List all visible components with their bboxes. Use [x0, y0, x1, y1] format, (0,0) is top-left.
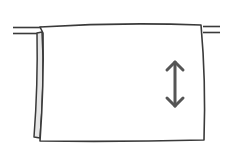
towel-front [40, 24, 205, 141]
towel-rail-illustration [0, 0, 225, 147]
